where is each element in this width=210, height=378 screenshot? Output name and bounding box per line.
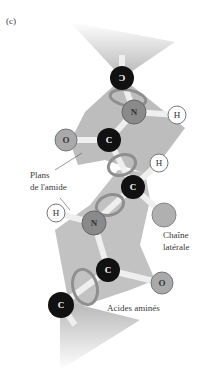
atom-c-mid-upper: C	[97, 128, 121, 152]
atom-h-left: H	[47, 204, 65, 222]
label-amino-acids: Acides aminés	[107, 303, 160, 313]
label-side-chain-2: latérale	[163, 242, 189, 252]
svg-text:C: C	[130, 182, 137, 192]
atom-n-top: N	[122, 100, 146, 124]
atom-o-left: O	[55, 129, 77, 151]
atom-side-chain	[152, 203, 176, 227]
peptide-diagram: C N H O C H C H N C O C (c) Plans de l'a…	[0, 0, 210, 378]
svg-text:H: H	[53, 208, 60, 218]
atom-h-top: H	[168, 106, 186, 124]
atom-c-lower: C	[96, 258, 120, 282]
atom-c-alpha: C	[121, 175, 145, 199]
svg-text:C: C	[119, 73, 126, 83]
svg-text:N: N	[91, 218, 98, 228]
svg-text:H: H	[174, 110, 181, 120]
svg-text:H: H	[156, 158, 163, 168]
atom-c-top: C	[110, 66, 134, 90]
panel-label: (c)	[6, 16, 16, 26]
svg-text:O: O	[158, 278, 165, 288]
label-amide-planes-1: Plans	[30, 170, 50, 180]
atom-o-right: O	[151, 272, 173, 294]
atom-n-mid: N	[82, 211, 106, 235]
label-side-chain-1: Chaîne	[163, 230, 189, 240]
svg-text:C: C	[105, 265, 112, 275]
svg-text:C: C	[58, 300, 65, 310]
atom-c-bottom: C	[48, 292, 74, 318]
label-amide-planes-2: de l'amide	[30, 182, 67, 192]
atom-h-mid: H	[150, 154, 168, 172]
svg-text:C: C	[106, 135, 113, 145]
svg-text:O: O	[62, 135, 69, 145]
svg-text:N: N	[131, 107, 138, 117]
